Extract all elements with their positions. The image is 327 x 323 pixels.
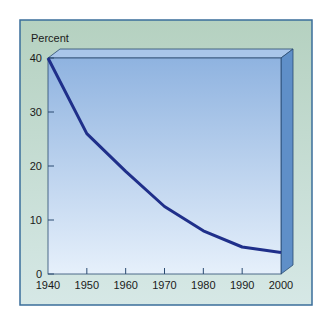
x-tick-label: 1940 <box>36 279 60 291</box>
x-tick-label: 1990 <box>230 279 254 291</box>
y-tick-label: 10 <box>30 214 42 226</box>
line-chart: Percent 010203040 1940195019601970198019… <box>0 0 327 323</box>
y-tick-label: 40 <box>30 52 42 64</box>
x-tick-label: 2000 <box>269 279 293 291</box>
x-tick-label: 1980 <box>191 279 215 291</box>
x-tick-label: 1960 <box>113 279 137 291</box>
y-axis-title: Percent <box>31 32 69 44</box>
y-tick-label: 20 <box>30 160 42 172</box>
x-tick-label: 1970 <box>152 279 176 291</box>
x-tick-label: 1950 <box>75 279 99 291</box>
y-tick-label: 30 <box>30 106 42 118</box>
plot-top-face <box>48 49 293 58</box>
plot-side-face <box>281 49 293 274</box>
plot-area <box>48 58 281 274</box>
